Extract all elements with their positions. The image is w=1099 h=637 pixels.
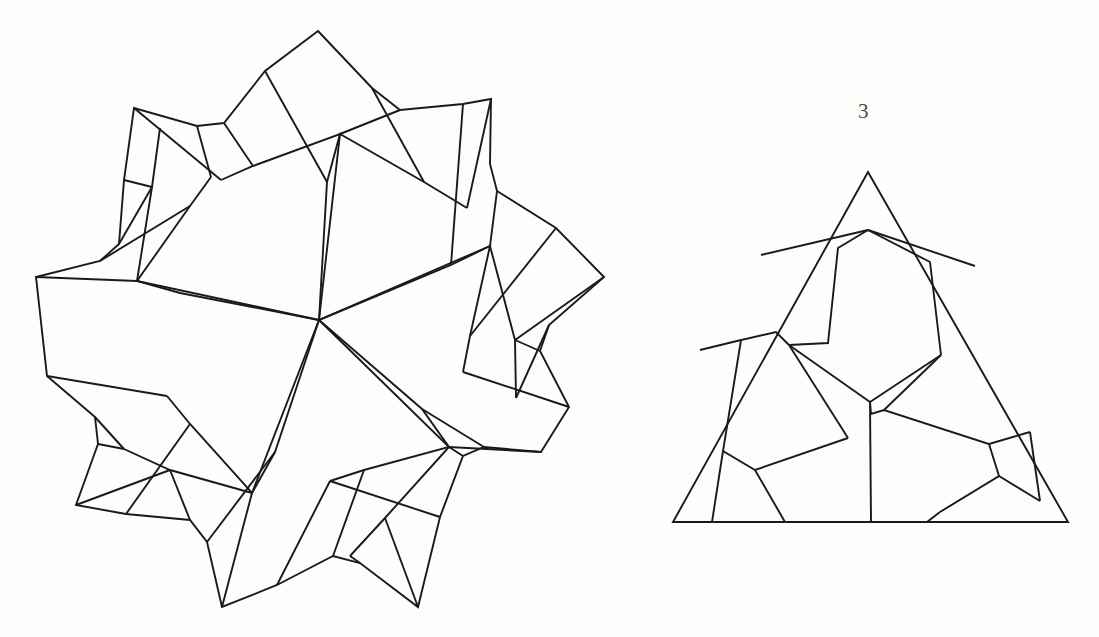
star-chord-23 [422,409,484,447]
star-chord-17 [100,206,190,261]
star-chord-18 [124,180,152,187]
star-chord-16 [47,376,167,396]
triangle-piece-c4 [927,512,940,522]
triangle-piece-b3 [712,451,723,522]
star-chord-11 [222,493,252,607]
page-canvas: 3 [0,0,1099,637]
star-piece-1b [319,134,467,320]
triangle-spoke-upright [870,355,941,402]
triangle-piece-c5 [1030,432,1040,501]
triangle-spoke-down [870,402,871,522]
triangle-piece-a2 [761,230,868,255]
star-chord-20 [451,104,463,265]
triangle-piece-c [870,402,999,512]
star-piece-3b [319,320,449,556]
star-chord-35 [277,481,330,585]
triangle-piece-c8 [999,476,1040,501]
triangle-dissection-figure [673,172,1068,522]
star-piece-5 [137,177,319,320]
star-chord-15 [36,277,137,281]
triangle-spoke-upleft [789,345,870,402]
star-chord-19 [197,126,211,177]
figure-number-label: 3 [858,101,869,122]
triangle-piece-b2 [700,340,741,350]
star-chord-21 [490,191,497,246]
star-piece-4 [167,320,319,493]
star-piece-2b [319,246,516,398]
star-chord-14 [126,424,190,514]
triangle-piece-a3 [868,230,975,266]
star-piece-3 [319,320,449,481]
star-chord-36 [170,470,190,520]
star-chord-13 [76,470,170,505]
star-chord-1 [265,71,327,182]
star-chord-12 [207,452,275,542]
star-chord-10 [330,481,440,517]
star-rosette-figure [36,31,604,607]
figures-svg [0,0,1099,637]
triangle-piece-b5 [789,345,848,438]
triangle-piece-b6 [755,470,785,522]
triangle-piece-b [723,332,848,470]
star-chord-5 [515,277,604,340]
star-chord-32 [515,340,540,351]
star-chord-30 [224,123,253,166]
triangle-piece-a [789,230,941,355]
star-chord-4 [467,99,491,208]
star-piece-5b [137,128,319,320]
triangle-piece-c2 [884,355,941,410]
